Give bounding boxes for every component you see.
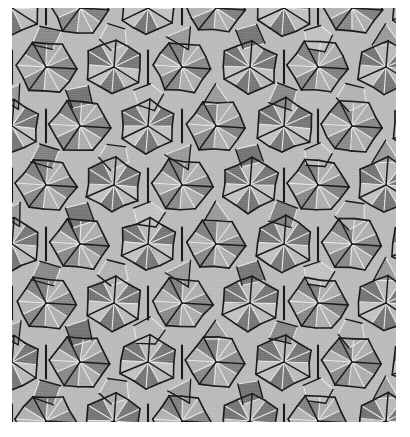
tile-edge bbox=[20, 202, 21, 226]
tile-edge bbox=[185, 44, 200, 45]
tile-edge bbox=[49, 280, 63, 281]
tile-edge bbox=[320, 396, 335, 397]
tile-edge bbox=[122, 126, 123, 138]
tile-edge-light bbox=[148, 8, 174, 9]
tile-edge bbox=[257, 124, 258, 138]
tile-edge bbox=[63, 266, 78, 267]
tile-edge bbox=[184, 162, 199, 163]
tile-edge-light bbox=[46, 44, 47, 67]
tile-edge bbox=[166, 326, 180, 327]
tile-edge bbox=[214, 386, 229, 387]
tile-edge bbox=[277, 291, 278, 304]
tile-edge bbox=[37, 349, 38, 364]
tile-edge bbox=[359, 183, 360, 197]
tile-edge-light bbox=[223, 66, 250, 67]
tile-edge bbox=[199, 149, 214, 150]
tile-edge bbox=[33, 397, 48, 398]
tile-edge bbox=[223, 66, 224, 79]
tile-edge bbox=[258, 111, 259, 124]
tile-edge bbox=[305, 396, 320, 397]
tile-edge bbox=[321, 280, 335, 281]
tile-edge bbox=[217, 221, 232, 222]
tile-edge bbox=[309, 246, 310, 261]
tile-edge bbox=[43, 209, 59, 210]
tile-edge bbox=[87, 301, 88, 316]
tile-edge bbox=[217, 102, 233, 103]
tile-edge bbox=[223, 51, 224, 66]
tile-edge bbox=[256, 361, 257, 374]
tile-edge bbox=[305, 159, 319, 160]
tile-edge bbox=[180, 209, 195, 210]
tile-edge bbox=[122, 111, 123, 126]
tile-edge bbox=[137, 343, 156, 344]
tile-edge-light bbox=[224, 302, 250, 303]
tile-edge bbox=[351, 151, 366, 152]
tile-edge bbox=[301, 209, 316, 210]
tile-edge bbox=[200, 266, 214, 267]
tile-edge bbox=[173, 245, 174, 260]
tiling-svg bbox=[12, 8, 396, 422]
tile-edge bbox=[392, 243, 393, 257]
tile-edge bbox=[224, 288, 225, 302]
tile-edge bbox=[257, 346, 258, 361]
tile-edge bbox=[33, 160, 48, 161]
tile-edge bbox=[29, 326, 45, 327]
tile-edge bbox=[223, 405, 224, 419]
tiling-plate bbox=[12, 8, 396, 422]
tile-edge bbox=[339, 101, 353, 102]
tile-edge-light bbox=[148, 244, 173, 245]
figure-canvas bbox=[0, 0, 410, 437]
tile-edge bbox=[88, 65, 89, 80]
tile-edge bbox=[36, 365, 37, 378]
tile-edge-light bbox=[250, 303, 277, 304]
tile-edge bbox=[120, 360, 121, 373]
tile-edge bbox=[47, 44, 63, 45]
